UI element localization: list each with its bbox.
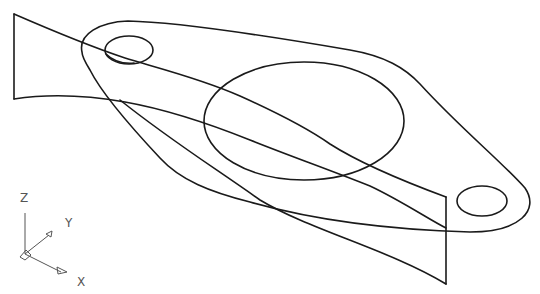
ucs-icon: Z Y X (20, 191, 85, 289)
y-axis-label: Y (64, 216, 73, 230)
central-bore-ellipse (204, 62, 404, 180)
flange-outline (82, 21, 530, 232)
z-axis-label: Z (20, 191, 28, 205)
x-axis-label: X (77, 275, 85, 289)
twisted-surface (14, 14, 446, 284)
flange-plate (82, 21, 530, 232)
surface-diagonal-edge (120, 100, 446, 284)
x-axis-line (25, 254, 61, 272)
y-axis-line (25, 235, 49, 254)
surface-lower-boundary (14, 96, 446, 228)
right-bolt-hole (457, 186, 507, 216)
surface-upper-boundary (14, 14, 446, 197)
central-bore (204, 62, 404, 180)
right-hole-ellipse (457, 186, 507, 216)
cad-viewport[interactable]: Z Y X (0, 0, 540, 294)
